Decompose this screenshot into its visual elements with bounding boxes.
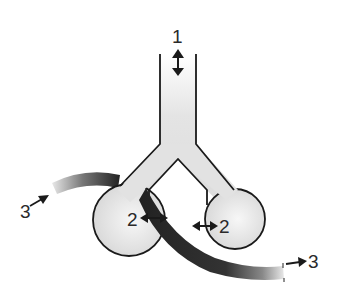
arrow-3-outflow-icon: [286, 257, 307, 267]
y-bulb-diagram: 1 2 2 3 3: [0, 0, 339, 301]
label-3-left: 3: [20, 202, 31, 221]
diagram-graphic: [0, 0, 339, 301]
label-2-left: 2: [127, 210, 138, 229]
y-body: [93, 54, 265, 256]
label-3-right: 3: [308, 252, 319, 271]
label-2-right: 2: [219, 217, 230, 236]
right-bulb: [205, 189, 265, 249]
arrow-3-inflow-icon: [30, 195, 49, 206]
label-1: 1: [172, 27, 183, 46]
